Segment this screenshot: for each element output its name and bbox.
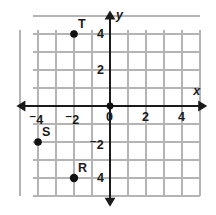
coordinate-plane-canvas [0,0,216,215]
y-axis-tick-label-2: 2 [97,64,104,77]
y-axis-tick-label-4: 4 [97,172,104,185]
plotted-point-s [34,138,42,146]
x-axis-tick-label-4: 4 [178,111,185,124]
y-axis-tick-label-neg2: –2 [90,136,104,151]
negative-sign: – [66,111,72,123]
axis-arrow-down [105,198,116,207]
point-label-t: T [78,18,86,31]
axis-arrow-right [198,101,207,112]
axis-arrow-left [16,101,25,112]
plotted-point-t [70,30,78,38]
coordinate-plane-figure: –4–202442–24xyTSR [0,0,216,215]
x-axis-tick-label-neg4: –4 [30,111,44,126]
y-axis-tick-label-4: 4 [97,28,104,41]
negative-sign: – [90,136,96,148]
y-axis-name-label: y [116,9,123,22]
x-axis-name-label: x [193,85,200,98]
negative-sign: – [30,111,36,123]
plotted-point-r [70,174,78,182]
axis-arrow-up [105,11,116,20]
x-axis-tick-label-neg2: –2 [66,111,80,126]
x-axis-tick-label-2: 2 [142,111,149,124]
point-label-s: S [42,126,50,139]
point-label-r: R [78,162,87,175]
x-axis-tick-label-0: 0 [106,111,113,124]
origin-dot [107,103,114,110]
